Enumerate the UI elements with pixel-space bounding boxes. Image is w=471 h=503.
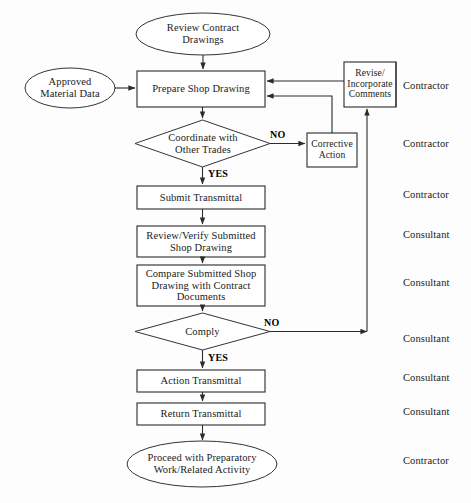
edge-label-coordinate-yes: YES [208, 168, 228, 179]
role-label-comply: Consultant [403, 333, 450, 344]
label-comply-decision: Comply [160, 313, 245, 350]
role-label-prepare-shop-drawing: Contractor [403, 80, 449, 91]
edge-label-comply-no: NO [264, 317, 279, 328]
label-proceed: Proceed with Preparatory Work/Related Ac… [127, 441, 277, 487]
label-return-transmittal: Return Transmittal [137, 403, 265, 425]
role-label-corrective-action: Contractor [403, 138, 449, 149]
label-corrective-action: Corrective Action [306, 133, 358, 167]
edge-label-comply-yes: YES [208, 352, 228, 363]
label-approved-material: Approved Material Data [25, 68, 115, 108]
label-revise-incorporate-comments: Revise/ Incorporate Comments [343, 61, 397, 107]
role-label-proceed: Contractor [403, 455, 449, 466]
label-prepare-shop-drawing: Prepare Shop Drawing [137, 71, 265, 107]
label-review-contract: Review Contract Drawings [136, 13, 270, 55]
edge-label-coordinate-no: NO [270, 129, 285, 140]
role-label-action-transmittal: Consultant [403, 372, 450, 383]
label-coordinate-decision: Coordinate with Other Trades [138, 121, 268, 166]
label-compare-submitted: Compare Submitted Shop Drawing with Cont… [137, 265, 265, 306]
role-label-return-transmittal: Consultant [403, 406, 450, 417]
connector-corrective-to-prepare [267, 96, 332, 133]
role-label-compare-submitted: Consultant [403, 277, 450, 288]
label-action-transmittal: Action Transmittal [137, 370, 265, 392]
role-label-review-verify: Consultant [403, 229, 450, 240]
flowchart-canvas: Review Contract Drawings Approved Materi… [0, 0, 471, 503]
label-submit-transmittal: Submit Transmittal [137, 186, 265, 209]
label-review-verify: Review/Verify Submitted Shop Drawing [137, 226, 265, 257]
role-label-submit-transmittal: Contractor [403, 189, 449, 200]
